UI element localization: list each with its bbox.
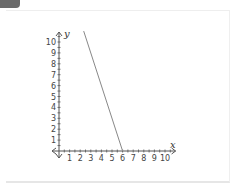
- y-tick-label: 10: [46, 38, 56, 47]
- x-tick-label: 2: [78, 154, 83, 163]
- axes: [52, 32, 176, 158]
- y-tick-label: 4: [51, 103, 56, 112]
- line-chart: 1234567891012345678910 x y: [0, 0, 236, 193]
- series: [84, 31, 123, 151]
- x-tick-label: 9: [152, 154, 157, 163]
- ticks: 1234567891012345678910: [46, 37, 170, 163]
- x-tick-label: 7: [131, 154, 136, 163]
- x-axis-label: x: [170, 139, 176, 150]
- x-tick-label: 6: [120, 154, 125, 163]
- x-tick-label: 10: [160, 154, 170, 163]
- y-tick-label: 5: [51, 93, 56, 102]
- x-tick-label: 3: [88, 154, 93, 163]
- y-tick-label: 6: [51, 82, 56, 91]
- data-line: [84, 31, 123, 151]
- y-tick-label: 3: [51, 114, 56, 123]
- y-tick-label: 9: [51, 49, 56, 58]
- x-tick-label: 1: [67, 154, 72, 163]
- y-axis-label: y: [63, 28, 70, 39]
- x-tick-label: 8: [141, 154, 146, 163]
- x-tick-label: 4: [99, 154, 104, 163]
- y-tick-label: 2: [51, 125, 56, 134]
- y-tick-label: 7: [51, 71, 56, 80]
- y-tick-label: 8: [51, 60, 56, 69]
- y-tick-label: 1: [51, 136, 56, 145]
- x-tick-label: 5: [109, 154, 114, 163]
